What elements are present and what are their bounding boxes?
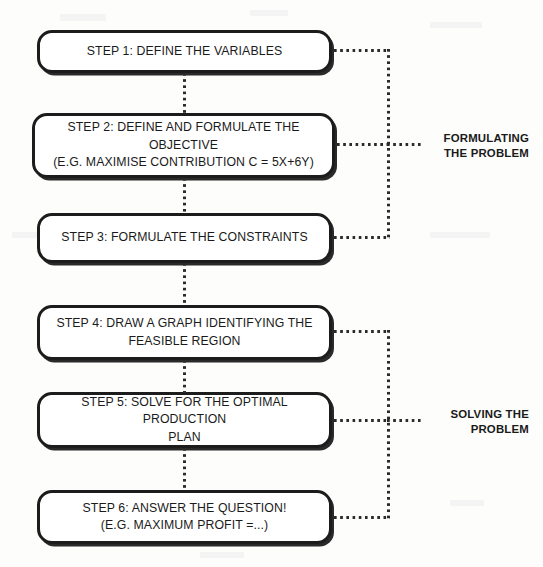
group-formulating-line-1: FORMULATING <box>443 132 529 144</box>
group-label-solving: SOLVING THE PROBLEM <box>396 407 529 437</box>
scan-speckle <box>200 552 244 558</box>
bracket-lead-step-5 <box>334 419 390 422</box>
step-2-line-1: STEP 2: DEFINE AND FORMULATE THE OBJECTI… <box>67 120 299 151</box>
group-formulating-line-2: THE PROBLEM <box>444 147 529 159</box>
bracket-lead-step-6 <box>334 516 390 519</box>
group-label-formulating: FORMULATING THE PROBLEM <box>396 131 529 161</box>
scan-speckle <box>430 232 490 238</box>
bracket-lead-step-2 <box>337 143 390 146</box>
bracket-lead-step-1 <box>334 49 390 52</box>
step-4-line-1: STEP 4: DRAW A GRAPH IDENTIFYING THE <box>56 316 312 330</box>
group-solving-line-1: SOLVING THE <box>450 408 529 420</box>
step-box-6[interactable]: STEP 6: ANSWER THE QUESTION! (E.G. MAXIM… <box>37 490 332 544</box>
step-2-line-2: (E.G. MAXIMISE CONTRIBUTION C = 5X+6Y) <box>43 154 324 171</box>
flowchart-canvas: STEP 1: DEFINE THE VARIABLES STEP 2: DEF… <box>0 0 543 567</box>
step-4-line-2: FEASIBLE REGION <box>48 333 321 350</box>
step-box-1[interactable]: STEP 1: DEFINE THE VARIABLES <box>37 30 332 73</box>
step-5-line-2: PLAN <box>48 429 321 446</box>
step-3-line-1: STEP 3: FORMULATE THE CONSTRAINTS <box>61 230 308 244</box>
connector-step2-step3 <box>183 178 186 214</box>
scan-speckle <box>12 232 38 238</box>
connector-step1-step2 <box>183 73 186 114</box>
group-solving-line-2: PROBLEM <box>471 423 529 435</box>
connector-step5-step6 <box>183 448 186 491</box>
bracket-lead-step-3 <box>334 236 390 239</box>
connector-step4-step5 <box>183 360 186 393</box>
step-1-line-1: STEP 1: DEFINE THE VARIABLES <box>87 44 283 58</box>
bracket-spine-solving <box>387 330 390 519</box>
step-box-2[interactable]: STEP 2: DEFINE AND FORMULATE THE OBJECTI… <box>32 113 335 178</box>
step-6-line-1: STEP 6: ANSWER THE QUESTION! <box>83 501 287 515</box>
step-5-line-1: STEP 5: SOLVE FOR THE OPTIMAL PRODUCTION <box>81 395 288 426</box>
connector-step3-step4 <box>183 263 186 306</box>
scan-speckle <box>450 500 484 506</box>
step-box-4[interactable]: STEP 4: DRAW A GRAPH IDENTIFYING THE FEA… <box>37 305 332 360</box>
scan-speckle <box>250 10 288 16</box>
bracket-lead-step-4 <box>334 330 390 333</box>
step-box-5[interactable]: STEP 5: SOLVE FOR THE OPTIMAL PRODUCTION… <box>37 392 332 448</box>
scan-speckle <box>430 22 482 28</box>
step-6-line-2: (E.G. MAXIMUM PROFIT =...) <box>48 517 321 534</box>
step-box-3[interactable]: STEP 3: FORMULATE THE CONSTRAINTS <box>37 213 332 263</box>
scan-speckle <box>60 14 106 21</box>
